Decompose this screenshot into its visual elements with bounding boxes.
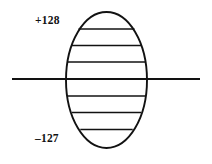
diagram-svg	[0, 0, 212, 164]
figure-canvas: +128 –127	[0, 0, 212, 164]
upper-bound-label: +128	[35, 15, 60, 27]
lower-bound-label: –127	[35, 133, 59, 145]
signal-envelope-ellipse	[66, 12, 147, 148]
